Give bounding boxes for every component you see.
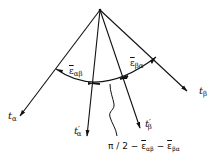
caption-term2-sub: βα: [172, 145, 180, 152]
label-t-beta-sub: β: [203, 90, 207, 98]
arc-arrow-alpha-left: [56, 69, 63, 73]
strain-diagram-canvas: [0, 0, 218, 162]
caption-term1-sub: αβ: [146, 145, 154, 152]
caption-minus: −: [154, 141, 167, 151]
label-t-beta-prime: t′β: [145, 118, 152, 131]
label-t-beta-prime-sub: β: [148, 123, 152, 131]
angle-caption: π / 2 − εαβ − εβα: [108, 142, 180, 152]
label-t-alpha: tα: [8, 111, 17, 123]
vector-t-alpha-prime: [87, 10, 100, 136]
label-t-beta: tβ: [199, 86, 207, 98]
label-eps-beta-alpha: εβα: [130, 59, 143, 70]
caption-leader: [110, 84, 117, 136]
caption-prefix: π / 2 −: [108, 141, 141, 151]
label-t-alpha-prime-sub: α: [77, 130, 82, 138]
label-eps-ba-sub: βα: [135, 62, 144, 70]
vector-t-beta: [100, 10, 187, 91]
label-eps-alpha-beta: εαβ: [69, 67, 82, 78]
apex-point: [99, 9, 102, 12]
arc-tick-alpha-prime: [92, 83, 100, 84]
label-t-alpha-sub: α: [12, 115, 17, 123]
vector-t-alpha: [20, 10, 100, 116]
label-eps-ab-sub: αβ: [74, 70, 83, 78]
label-t-alpha-prime: t′α: [74, 125, 82, 138]
